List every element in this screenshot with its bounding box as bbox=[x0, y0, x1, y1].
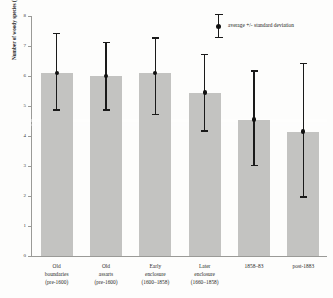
y-axis-title: Number of woody species (µm density) bbox=[8, 0, 20, 92]
mean-marker bbox=[55, 71, 59, 75]
y-axis-line bbox=[31, 16, 32, 257]
error-bar-cap-lower bbox=[300, 196, 307, 197]
x-axis-label-line: (1660–1858) bbox=[165, 278, 245, 286]
y-axis-tick: 1 bbox=[28, 226, 31, 227]
mean-marker bbox=[301, 129, 305, 133]
plot-area: 012345678 bbox=[31, 16, 327, 257]
y-axis-tick: 4 bbox=[28, 136, 31, 137]
y-axis-tick-label: 8 bbox=[24, 12, 27, 19]
y-axis-tick: 3 bbox=[28, 166, 31, 167]
y-axis-tick-label: 1 bbox=[24, 222, 27, 229]
error-bar-cap-lower bbox=[103, 109, 110, 110]
error-bar-cap-lower bbox=[53, 109, 60, 110]
y-axis-tick-label: 4 bbox=[24, 132, 27, 139]
error-bar-cap-upper bbox=[300, 63, 307, 64]
y-axis-tick: 0 bbox=[28, 256, 31, 257]
scan-artifact-band bbox=[31, 119, 327, 122]
x-axis-label: post-1883 bbox=[263, 262, 333, 270]
y-axis-tick-label: 3 bbox=[24, 162, 27, 169]
y-axis-tick: 7 bbox=[28, 46, 31, 47]
y-axis-tick-label: 2 bbox=[24, 192, 27, 199]
error-bar-cap-lower bbox=[152, 114, 159, 115]
x-axis-label-line: post-1883 bbox=[263, 262, 333, 270]
error-bar-cap-lower bbox=[201, 130, 208, 131]
y-axis-tick: 6 bbox=[28, 76, 31, 77]
mean-marker bbox=[203, 90, 207, 94]
error-bar-cap-upper bbox=[53, 33, 60, 34]
error-bar bbox=[199, 55, 211, 256]
mean-marker bbox=[104, 74, 108, 78]
y-axis-tick: 5 bbox=[28, 106, 31, 107]
error-bar-cap-upper bbox=[201, 54, 208, 55]
x-axis-label-line: enclosure bbox=[165, 270, 245, 278]
error-bar bbox=[51, 34, 63, 256]
mean-marker bbox=[153, 71, 157, 75]
error-bar-cap-lower bbox=[251, 165, 258, 166]
error-bar bbox=[149, 39, 161, 257]
y-axis-tick-label: 7 bbox=[24, 42, 27, 49]
y-axis-tick-label: 5 bbox=[24, 102, 27, 109]
error-bar bbox=[248, 72, 260, 257]
error-bar-cap-upper bbox=[152, 37, 159, 38]
chart-figure: Number of woody species (µm density) 012… bbox=[0, 0, 333, 298]
x-axis-line bbox=[31, 256, 327, 257]
error-bar bbox=[297, 64, 309, 256]
error-bar bbox=[100, 43, 112, 256]
scan-artifact-band bbox=[31, 124, 327, 126]
error-bar-cap-upper bbox=[251, 70, 258, 71]
legend-error-bar-icon bbox=[214, 13, 223, 39]
y-axis-tick: 8 bbox=[28, 16, 31, 17]
y-axis-tick-label: 0 bbox=[24, 252, 27, 259]
legend-label: average +/- standard deviation bbox=[228, 22, 294, 28]
error-bar-cap-upper bbox=[103, 42, 110, 43]
mean-marker bbox=[252, 117, 256, 121]
error-bar-line bbox=[155, 39, 156, 116]
y-axis-tick: 2 bbox=[28, 196, 31, 197]
y-axis-tick-label: 6 bbox=[24, 72, 27, 79]
